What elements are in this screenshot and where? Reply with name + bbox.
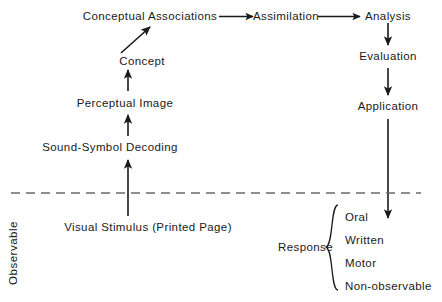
response-item-non-observable: Non-observable — [345, 280, 432, 293]
response-item-written: Written — [345, 234, 384, 247]
node-sound-symbol-decoding: Sound-Symbol Decoding — [42, 141, 178, 154]
response-item-motor: Motor — [345, 257, 376, 270]
arrow-concept-to-associations — [121, 27, 150, 53]
node-evaluation: Evaluation — [359, 50, 417, 63]
node-response-label: Response — [278, 241, 333, 254]
node-perceptual-image: Perceptual Image — [77, 97, 174, 110]
node-conceptual-associations: Conceptual Associations — [83, 10, 218, 23]
node-application: Application — [358, 100, 419, 113]
reading-process-diagram: Conceptual Associations Assimilation Ana… — [0, 0, 442, 302]
response-item-oral: Oral — [345, 211, 368, 224]
node-visual-stimulus: Visual Stimulus (Printed Page) — [64, 221, 232, 234]
node-concept: Concept — [119, 55, 165, 68]
node-analysis: Analysis — [365, 10, 411, 23]
node-assimilation: Assimilation — [253, 10, 319, 23]
observable-axis-label: Observable — [7, 213, 19, 293]
